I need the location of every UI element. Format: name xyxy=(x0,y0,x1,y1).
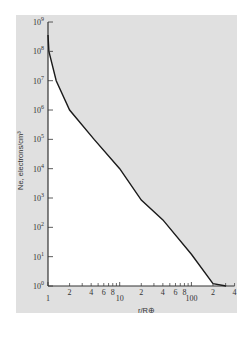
x-tick-label-major: 100 xyxy=(185,294,197,303)
x-tick-label-minor: 4 xyxy=(89,288,93,297)
x-tick-label-minor: 6 xyxy=(173,288,177,297)
x-axis-label: r/R⊕ xyxy=(138,306,155,315)
x-tick-label-minor: 2 xyxy=(211,288,215,297)
y-axis-label: Ne, electrons/cm³ xyxy=(16,131,25,190)
x-tick-label-major: 10 xyxy=(116,294,124,303)
x-tick-label-major: 1 xyxy=(46,294,50,303)
x-tick-label-minor: 6 xyxy=(102,288,106,297)
electron-density-chart: 100101102103104105106107108109 110100246… xyxy=(0,0,250,338)
x-tick-label-minor: 4 xyxy=(233,288,237,297)
x-tick-label-minor: 2 xyxy=(68,288,72,297)
x-tick-label-minor: 4 xyxy=(161,288,165,297)
x-tick-label-minor: 8 xyxy=(111,288,115,297)
x-tick-label-minor: 8 xyxy=(182,288,186,297)
x-tick-label-minor: 2 xyxy=(139,288,143,297)
